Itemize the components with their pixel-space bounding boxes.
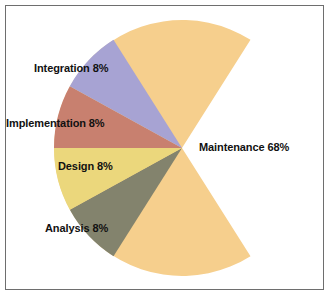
pie-label-analysis: Analysis 8% [45, 222, 108, 234]
pie-chart-figure: Maintenance 68% Analysis 8% Design 8% Im… [0, 0, 331, 297]
pie-label-implementation: Implementation 8% [6, 117, 105, 129]
pie-label-maintenance: Maintenance 68% [199, 141, 289, 153]
pie-label-design: Design 8% [58, 160, 113, 172]
pie-label-integration: Integration 8% [34, 62, 108, 74]
pie-plot-area: Maintenance 68% Analysis 8% Design 8% Im… [0, 0, 331, 297]
